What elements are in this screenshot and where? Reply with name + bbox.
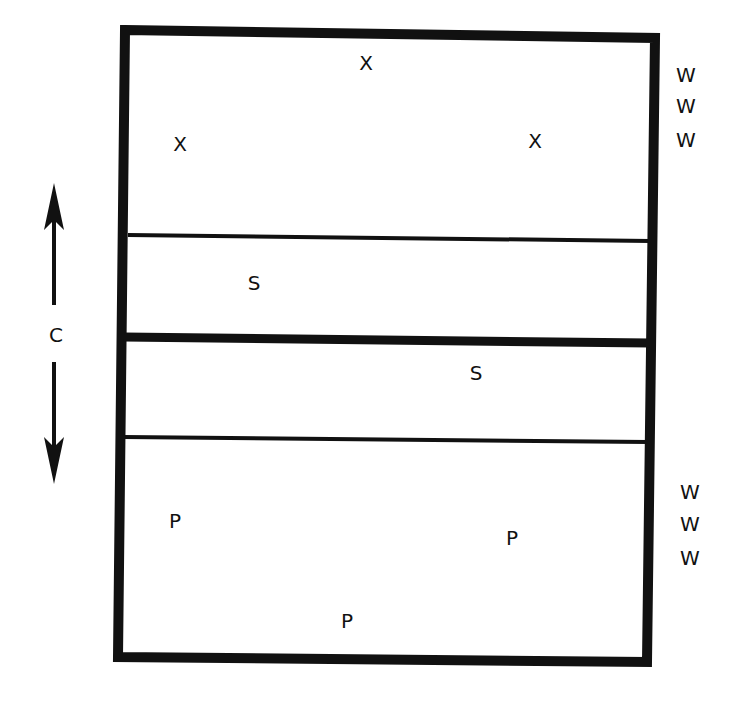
marker-s: S bbox=[248, 271, 261, 295]
upper-service-line bbox=[128, 235, 650, 241]
waiting-w: W bbox=[676, 63, 696, 87]
marker-p: P bbox=[341, 609, 353, 633]
marker-x: X bbox=[173, 132, 187, 156]
court-diagram: X X X S S P P P W W W W W W C bbox=[0, 0, 744, 709]
marker-x: X bbox=[528, 129, 542, 153]
center-line bbox=[124, 337, 650, 343]
marker-p: P bbox=[506, 526, 518, 550]
marker-x: X bbox=[359, 51, 373, 75]
waiting-w: W bbox=[680, 512, 700, 536]
waiting-w: W bbox=[680, 480, 700, 504]
axis-label-c: C bbox=[49, 323, 63, 347]
waiting-w: W bbox=[676, 94, 696, 118]
marker-p: P bbox=[169, 509, 181, 533]
marker-s: S bbox=[470, 361, 483, 385]
lower-service-line bbox=[124, 437, 648, 442]
waiting-w: W bbox=[676, 128, 696, 152]
waiting-w: W bbox=[680, 546, 700, 570]
